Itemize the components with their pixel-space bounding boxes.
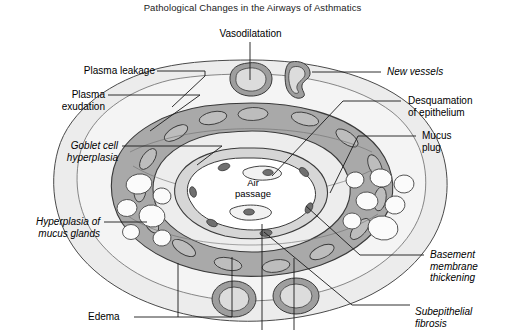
label-air-passage: Air passage bbox=[218, 177, 288, 199]
label-basement-membrane-thickening: Basement membrane thickening bbox=[430, 249, 505, 284]
figure-canvas: Pathological Changes in the Airways of A… bbox=[0, 0, 505, 330]
label-plasma-leakage: Plasma leakage bbox=[40, 65, 155, 77]
label-mucus-plug: Mucus plug bbox=[422, 130, 492, 153]
leader-edema bbox=[134, 257, 232, 317]
leader-plasma-leakage bbox=[157, 71, 205, 107]
leader-goblet-cell bbox=[122, 146, 222, 165]
label-edema: Edema bbox=[88, 311, 148, 323]
leader-subepithelial-fibrosis bbox=[264, 232, 410, 305]
label-goblet-cell-hyperplasia: Goblet cell hyperplasia bbox=[8, 140, 118, 163]
label-new-vessels: New vessels bbox=[387, 66, 502, 78]
leader-plasma-exudation bbox=[108, 95, 200, 131]
leader-mucus-plug bbox=[330, 136, 416, 193]
leader-desquamation bbox=[272, 101, 401, 176]
label-plasma-exudation: Plasma exudation bbox=[10, 89, 105, 112]
label-subepithelial-fibrosis: Subepithelial fibrosis bbox=[415, 306, 505, 329]
label-hyperplasia-of-mucus-glands: Hyperplasia of mucus glands bbox=[0, 216, 100, 239]
label-desquamation-of-epithelium: Desquamation of epithelium bbox=[408, 95, 505, 118]
label-vasodilatation: Vasodilatation bbox=[193, 28, 308, 40]
leader-basement-membrane bbox=[306, 206, 424, 255]
